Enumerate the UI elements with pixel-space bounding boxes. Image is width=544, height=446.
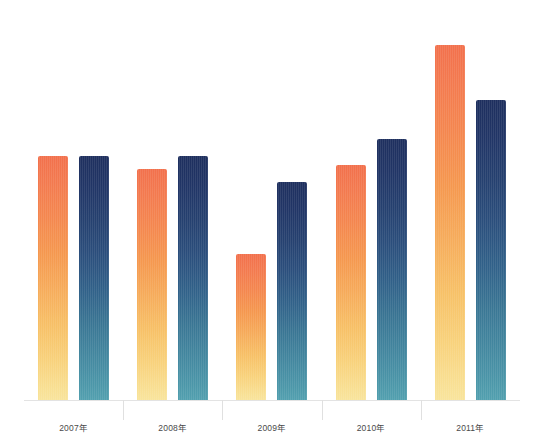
axis-cell: 2011年 xyxy=(421,400,520,446)
bar-2009-a-wrapper: 34億ドル xyxy=(236,0,266,400)
axis-tick-divider xyxy=(421,400,422,420)
bar-2011-b-wrapper: 70億ドル xyxy=(476,0,506,400)
bar-2007-a[interactable]: 57億ドル xyxy=(38,156,68,400)
axis-cell: 2007年 xyxy=(24,400,123,446)
axis-cell: 2009年 xyxy=(222,400,321,446)
plot-area: 57億ドル57億ドル54億ドル57億ドル34億ドル51億ドル55億ドル61億ドル… xyxy=(0,0,544,446)
bar-2007-b[interactable]: 57億ドル xyxy=(79,156,109,400)
bar-2009-a[interactable]: 34億ドル xyxy=(236,254,266,400)
axis-cell: 2010年 xyxy=(322,400,421,446)
bar-2010-a[interactable]: 55億ドル xyxy=(336,165,366,400)
bar-2010-b-wrapper: 61億ドル xyxy=(377,0,407,400)
bar-group: 57億ドル57億ドル xyxy=(24,0,123,400)
bar-chart: 57億ドル57億ドル54億ドル57億ドル34億ドル51億ドル55億ドル61億ドル… xyxy=(0,0,544,446)
bar-pair: 55億ドル61億ドル xyxy=(336,0,407,400)
bar-2008-b[interactable]: 57億ドル xyxy=(178,156,208,400)
bar-2007-a-wrapper: 57億ドル xyxy=(38,0,68,400)
bar-2011-b[interactable]: 70億ドル xyxy=(476,100,506,400)
bar-group: 54億ドル57億ドル xyxy=(123,0,222,400)
axis-label-3: 2010年 xyxy=(357,424,386,433)
axis-tick-divider xyxy=(322,400,323,420)
bar-2010-b[interactable]: 61億ドル xyxy=(377,139,407,400)
bar-pair: 34億ドル51億ドル xyxy=(236,0,307,400)
bar-pair: 57億ドル57億ドル xyxy=(38,0,109,400)
bar-groups: 57億ドル57億ドル54億ドル57億ドル34億ドル51億ドル55億ドル61億ドル… xyxy=(24,0,520,400)
bar-2011-a[interactable]: 83億ドル xyxy=(435,45,465,400)
bar-group: 55億ドル61億ドル xyxy=(322,0,421,400)
bar-2007-b-wrapper: 57億ドル xyxy=(79,0,109,400)
axis-cell: 2008年 xyxy=(123,400,222,446)
bar-2009-b-wrapper: 51億ドル xyxy=(277,0,307,400)
bar-2010-a-wrapper: 55億ドル xyxy=(336,0,366,400)
axis-label-4: 2011年 xyxy=(456,424,484,433)
axis-tick-divider xyxy=(222,400,223,420)
axis-tick-divider xyxy=(123,400,124,420)
bar-group: 83億ドル70億ドル xyxy=(421,0,520,400)
bar-pair: 83億ドル70億ドル xyxy=(435,0,506,400)
axis-label-0: 2007年 xyxy=(59,424,88,433)
bar-group: 34億ドル51億ドル xyxy=(222,0,321,400)
bar-2009-b[interactable]: 51億ドル xyxy=(277,182,307,400)
bar-2008-a[interactable]: 54億ドル xyxy=(137,169,167,400)
bar-pair: 54億ドル57億ドル xyxy=(137,0,208,400)
category-axis: 2007年2008年2009年2010年2011年 xyxy=(24,400,520,446)
axis-label-2: 2009年 xyxy=(258,424,287,433)
bar-2008-b-wrapper: 57億ドル xyxy=(178,0,208,400)
bar-2011-a-wrapper: 83億ドル xyxy=(435,0,465,400)
axis-label-1: 2008年 xyxy=(158,424,187,433)
bar-2008-a-wrapper: 54億ドル xyxy=(137,0,167,400)
